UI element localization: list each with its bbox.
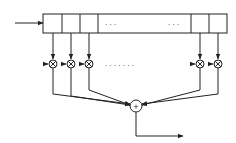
- tap-lines: [53, 33, 218, 59]
- multiplier-icon: [67, 60, 75, 68]
- register-ellipsis-right: . . .: [168, 19, 179, 27]
- shift-register: . . . . . .: [43, 14, 227, 33]
- sum-node-icon: +: [130, 100, 142, 112]
- multiplier-icon: [49, 60, 57, 68]
- multiplier-ellipsis: . . . . . . .: [105, 60, 134, 68]
- multiplier-icon: [85, 60, 93, 68]
- multiplier-icon: [196, 60, 204, 68]
- register-ellipsis-left: . . .: [105, 19, 116, 27]
- multiplier-icon: [214, 60, 222, 68]
- fir-filter-diagram: . . . . . . . . . . . . . +: [0, 0, 236, 143]
- multiplier-icons: [49, 60, 222, 68]
- output-arrow: [136, 112, 183, 136]
- sum-input-lines: [53, 68, 218, 105]
- sum-symbol: +: [133, 103, 139, 111]
